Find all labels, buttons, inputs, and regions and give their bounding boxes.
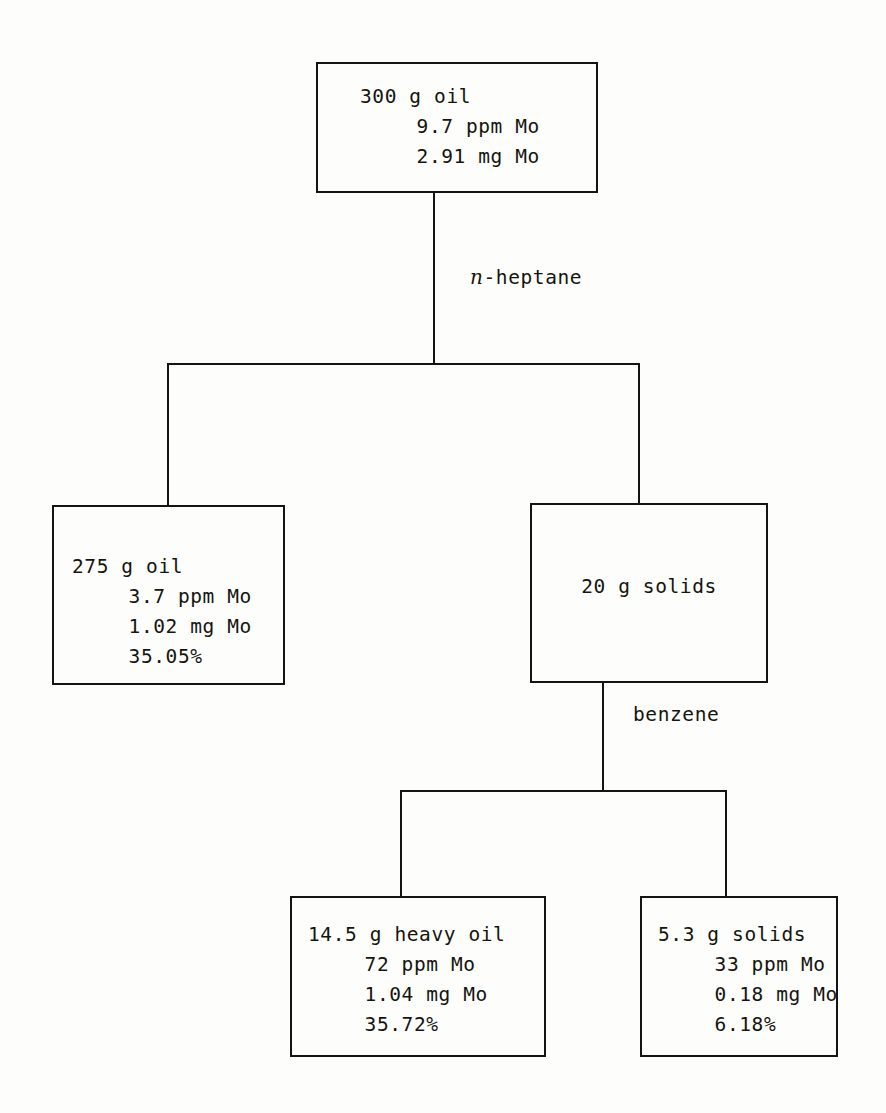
node-deasphalted-oil-text: 275 g oil 3.7 ppm Mo 1.02 mg Mo 35.05% bbox=[72, 552, 283, 672]
node-residual-solids-line-2: 33 ppm Mo bbox=[658, 950, 836, 980]
edge-label-benzene: benzene bbox=[633, 703, 719, 726]
node-feed-oil-line-2: 9.7 ppm Mo bbox=[360, 112, 596, 142]
node-deasphalted-oil: 275 g oil 3.7 ppm Mo 1.02 mg Mo 35.05% bbox=[52, 505, 285, 685]
node-deasphalted-oil-line-1: 275 g oil bbox=[72, 552, 283, 582]
split1-right-drop bbox=[638, 363, 640, 505]
flow-diagram-canvas: 300 g oil 9.7 ppm Mo 2.91 mg Mo n-heptan… bbox=[0, 0, 886, 1113]
node-deasphalted-oil-line-4: 35.05% bbox=[72, 642, 283, 672]
split1-horizontal bbox=[167, 363, 640, 365]
connector-solids-to-split2 bbox=[602, 683, 604, 791]
node-heavy-oil-line-4: 35.72% bbox=[308, 1010, 544, 1040]
node-feed-oil-line-1: 300 g oil bbox=[360, 82, 596, 112]
node-feed-oil-text: 300 g oil 9.7 ppm Mo 2.91 mg Mo bbox=[360, 82, 596, 172]
edge-label-heptane: n-heptane bbox=[470, 265, 582, 289]
split2-left-drop bbox=[400, 790, 402, 898]
split2-right-drop bbox=[725, 790, 727, 898]
node-residual-solids: 5.3 g solids 33 ppm Mo 0.18 mg Mo 6.18% bbox=[640, 896, 838, 1057]
node-feed-oil: 300 g oil 9.7 ppm Mo 2.91 mg Mo bbox=[316, 62, 598, 193]
edge-label-benzene-text: benzene bbox=[633, 703, 719, 726]
node-solids-text: 20 g solids bbox=[532, 572, 766, 602]
node-deasphalted-oil-line-3: 1.02 mg Mo bbox=[72, 612, 283, 642]
node-deasphalted-oil-line-2: 3.7 ppm Mo bbox=[72, 582, 283, 612]
connector-feed-to-split1 bbox=[433, 193, 435, 364]
node-residual-solids-line-1: 5.3 g solids bbox=[658, 920, 836, 950]
split1-left-drop bbox=[167, 363, 169, 507]
node-feed-oil-line-3: 2.91 mg Mo bbox=[360, 142, 596, 172]
edge-label-heptane-rest: -heptane bbox=[483, 266, 582, 289]
node-solids-line-1: 20 g solids bbox=[532, 572, 766, 602]
node-heavy-oil-text: 14.5 g heavy oil 72 ppm Mo 1.04 mg Mo 35… bbox=[308, 920, 544, 1040]
node-solids: 20 g solids bbox=[530, 503, 768, 683]
node-residual-solids-line-3: 0.18 mg Mo bbox=[658, 980, 836, 1010]
node-residual-solids-line-4: 6.18% bbox=[658, 1010, 836, 1040]
node-heavy-oil: 14.5 g heavy oil 72 ppm Mo 1.04 mg Mo 35… bbox=[290, 896, 546, 1057]
node-residual-solids-text: 5.3 g solids 33 ppm Mo 0.18 mg Mo 6.18% bbox=[658, 920, 836, 1040]
edge-label-heptane-italic-n: n bbox=[470, 265, 483, 289]
node-heavy-oil-line-3: 1.04 mg Mo bbox=[308, 980, 544, 1010]
node-heavy-oil-line-1: 14.5 g heavy oil bbox=[308, 920, 544, 950]
split2-horizontal bbox=[400, 790, 727, 792]
node-heavy-oil-line-2: 72 ppm Mo bbox=[308, 950, 544, 980]
